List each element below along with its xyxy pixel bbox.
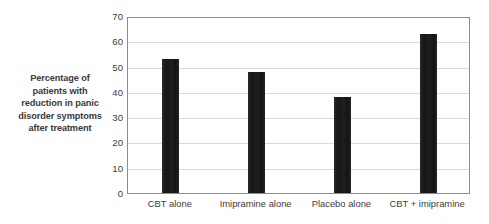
y-axis-tick-label: 30: [101, 113, 123, 123]
x-axis-tick-labels: CBT aloneImipramine alonePlacebo aloneCB…: [127, 198, 470, 218]
plot-area: [127, 17, 470, 194]
bar: [334, 97, 351, 193]
y-axis-tick-labels: 010203040506070: [97, 0, 123, 224]
x-axis-tick-label: Placebo alone: [312, 198, 371, 210]
bar-series: [128, 18, 469, 193]
x-axis-tick-label: Imipramine alone: [220, 198, 292, 210]
y-axis-tick-label: 20: [101, 138, 123, 148]
bar-chart-figure: Percentage ofpatients withreduction in p…: [0, 0, 489, 224]
y-axis-tick-label: 40: [101, 88, 123, 98]
bar: [162, 59, 179, 193]
y-axis-tick-label: 10: [101, 164, 123, 174]
x-axis-tick-label: CBT + imipramine: [390, 198, 465, 210]
y-axis-tick-label: 50: [101, 63, 123, 73]
x-axis-tick-label: CBT alone: [148, 198, 192, 210]
y-axis-tick-label: 60: [101, 37, 123, 47]
bar: [420, 34, 437, 193]
y-axis-tick-label: 0: [101, 189, 123, 199]
y-axis-tick-label: 70: [101, 12, 123, 22]
bar: [248, 72, 265, 193]
